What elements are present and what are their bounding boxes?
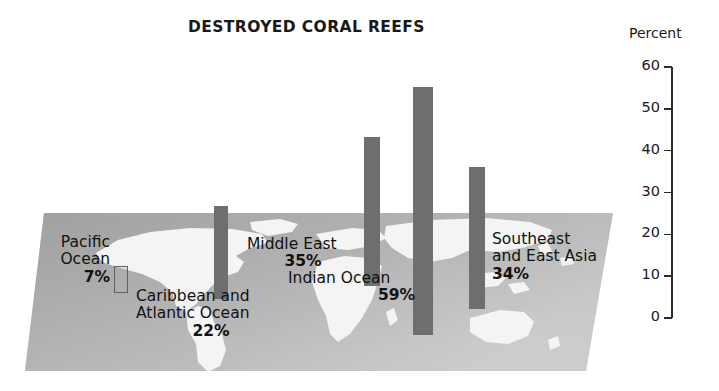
y-tick-label-50: 50 (626, 99, 660, 115)
map-platform (0, 0, 719, 391)
bar-pacific-ocean (114, 266, 128, 293)
chart-figure: DESTROYED CORAL REEFS (0, 0, 719, 391)
y-tick-label-10: 10 (626, 266, 660, 282)
label-pacific-ocean-line1: Pacific (10, 234, 110, 251)
label-caribbean-line2: Atlantic Ocean (136, 305, 326, 322)
label-seasia-line2: and East Asia (492, 248, 632, 265)
axis-caption-percent: Percent (629, 25, 682, 41)
value-southeast-east-asia: 34% (492, 266, 632, 283)
y-tick-label-40: 40 (626, 141, 660, 157)
value-caribbean-atlantic-ocean: 22% (136, 323, 286, 340)
y-tick-mark-60 (664, 66, 672, 68)
label-pacific-ocean-line2: Ocean (10, 251, 110, 268)
y-tick-mark-20 (664, 234, 672, 236)
y-tick-label-20: 20 (626, 224, 660, 240)
y-tick-label-60: 60 (626, 57, 660, 73)
label-middle-east: Middle East 35% (247, 236, 377, 271)
bar-caribbean-atlantic-ocean (214, 206, 228, 299)
y-tick-mark-50 (664, 108, 672, 110)
label-pacific-ocean: Pacific Ocean 7% (10, 234, 110, 286)
label-indian-ocean: Indian Ocean 59% (288, 270, 428, 305)
y-tick-mark-30 (664, 192, 672, 194)
bar-southeast-east-asia (469, 167, 485, 309)
label-seasia-line1: Southeast (492, 231, 632, 248)
label-indian-ocean-line1: Indian Ocean (288, 270, 428, 287)
y-tick-mark-0 (664, 317, 672, 319)
y-tick-label-0: 0 (626, 308, 660, 324)
y-tick-mark-10 (664, 275, 672, 277)
value-indian-ocean: 59% (288, 287, 415, 304)
label-southeast-east-asia: Southeast and East Asia 34% (492, 231, 632, 283)
value-pacific-ocean: 7% (10, 269, 110, 286)
label-middle-east-line1: Middle East (247, 236, 377, 253)
y-tick-label-30: 30 (626, 183, 660, 199)
y-tick-mark-40 (664, 150, 672, 152)
